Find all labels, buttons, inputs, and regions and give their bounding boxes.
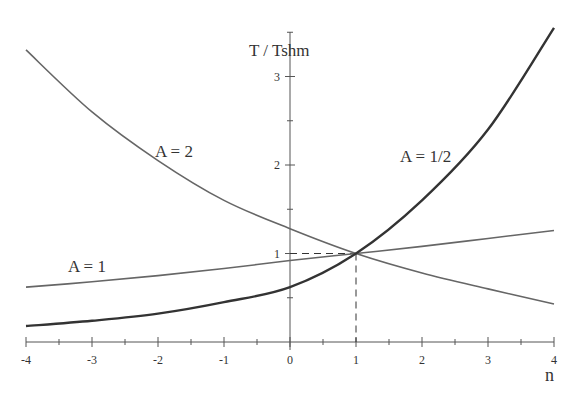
x-tick-label: -2 [153, 353, 163, 367]
y-axis-label: T / Tshm [249, 41, 310, 60]
y-tick-label: 1 [274, 247, 280, 261]
x-tick-label: 2 [419, 353, 425, 367]
x-tick-label: -3 [87, 353, 97, 367]
label-ahalf: A = 1/2 [400, 147, 451, 166]
x-tick-label: 3 [485, 353, 491, 367]
axes: -4-3-2-101234123 [21, 32, 557, 367]
y-tick-label: 2 [274, 158, 280, 172]
x-tick-label: -4 [21, 353, 31, 367]
x-tick-label: 1 [353, 353, 359, 367]
label-a2: A = 2 [155, 142, 193, 161]
x-tick-label: 0 [287, 353, 293, 367]
label-a1: A = 1 [68, 257, 106, 276]
line-chart: -4-3-2-101234123 T / Tshm n A = 2 A = 1 … [0, 0, 571, 398]
chart-figure: -4-3-2-101234123 T / Tshm n A = 2 A = 1 … [0, 0, 571, 398]
x-axis-label: n [545, 365, 554, 385]
x-tick-label: -1 [219, 353, 229, 367]
y-tick-label: 3 [274, 70, 280, 84]
